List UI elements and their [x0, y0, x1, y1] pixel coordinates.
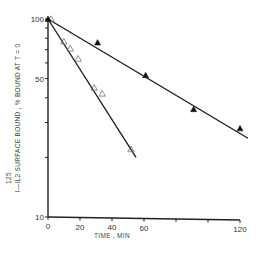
y-tick-label: 50: [35, 75, 44, 84]
chart: 10501000204060120 TIME , MIN I—IL2 SURFA…: [0, 0, 264, 259]
x-tick-label: 40: [108, 223, 117, 232]
fit-line: [48, 19, 248, 138]
x-tick-label: 120: [233, 225, 247, 234]
y-axis-title: I—IL2 SURFACE BOUND , % BOUND AT T = 0: [14, 44, 21, 193]
open-triangle-marker: [99, 90, 105, 96]
tick-labels: 10501000204060120: [31, 15, 248, 234]
filled-triangle-marker: [237, 125, 243, 130]
filled-triangle-marker: [143, 72, 149, 77]
x-tick-label: 60: [140, 224, 149, 233]
open-triangle-marker: [75, 56, 81, 62]
filled-triangle-marker: [95, 40, 101, 45]
axes: [45, 19, 240, 223]
y-axis-superscript-group: 125: [5, 172, 12, 184]
y-axis-title-group: I—IL2 SURFACE BOUND , % BOUND AT T = 0: [14, 44, 21, 193]
y-tick-label: 10: [35, 213, 44, 222]
y-tick-label: 100: [31, 15, 45, 24]
x-tick-label: 0: [46, 222, 51, 231]
x-axis-title: TIME , MIN: [94, 232, 130, 239]
y-axis-isotope-superscript: 125: [5, 172, 12, 184]
fit-lines: [48, 19, 248, 157]
data-markers: [45, 16, 243, 152]
x-tick-label: 20: [76, 223, 85, 232]
